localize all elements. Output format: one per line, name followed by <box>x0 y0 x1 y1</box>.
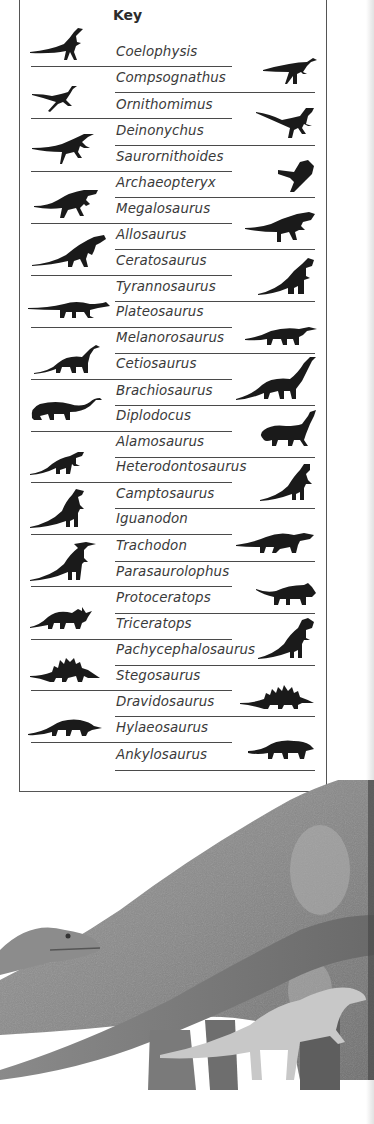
key-title: Key <box>113 7 142 23</box>
alamosaurus-silhouette-icon <box>258 410 316 450</box>
divider-line <box>31 171 232 172</box>
divider-line <box>115 613 315 614</box>
key-entry-coelophysis: Coelophysis <box>116 44 197 59</box>
divider-line <box>115 457 315 458</box>
stegosaurus-silhouette-icon <box>30 656 100 684</box>
divider-line <box>31 66 232 67</box>
divider-line <box>115 508 315 509</box>
divider-line <box>115 353 315 354</box>
coelophysis-silhouette-icon <box>30 26 96 62</box>
key-entry-parasaurolophus: Parasaurolophus <box>116 564 229 579</box>
key-entry-stegosaurus: Stegosaurus <box>116 668 200 683</box>
key-entry-compsognathus: Compsognathus <box>116 70 226 85</box>
megalosaurus-silhouette-icon <box>34 188 100 220</box>
divider-line <box>115 665 315 666</box>
key-entry-dravidosaurus: Dravidosaurus <box>116 694 214 709</box>
divider-line <box>31 327 232 328</box>
ornithomimus-silhouette-icon <box>32 84 80 114</box>
heterodontosaurus-silhouette-icon <box>30 448 86 476</box>
divider-line <box>115 770 315 771</box>
key-entry-heterodontosaurus: Heterodontosaurus <box>116 459 246 474</box>
key-entry-ornithomimus: Ornithomimus <box>116 97 213 112</box>
divider-line <box>31 431 232 432</box>
key-entry-ceratosaurus: Ceratosaurus <box>116 253 207 268</box>
key-entry-iguanodon: Iguanodon <box>116 511 188 526</box>
deinonychus-silhouette-icon <box>32 132 98 166</box>
dravidosaurus-silhouette-icon <box>240 683 314 711</box>
divider-line <box>31 379 232 380</box>
compsognathus-silhouette-icon <box>263 58 317 86</box>
trachodon-silhouette-icon <box>236 531 316 555</box>
key-entry-melanorosaurus: Melanorosaurus <box>116 330 224 345</box>
key-entry-camptosaurus: Camptosaurus <box>116 486 214 501</box>
tyrannosaurus-silhouette-icon <box>258 256 316 296</box>
key-entry-protoceratops: Protoceratops <box>116 590 211 605</box>
saurornithoides-silhouette-icon <box>256 106 316 140</box>
divider-line <box>31 742 232 743</box>
key-entry-tyrannosaurus: Tyrannosaurus <box>116 279 216 294</box>
divider-line <box>115 92 315 93</box>
divider-line <box>31 639 232 640</box>
pachycephalosaurus-silhouette-icon <box>258 616 314 660</box>
key-entry-brachiosaurus: Brachiosaurus <box>116 383 213 398</box>
divider-line <box>31 118 232 119</box>
triceratops-silhouette-icon <box>30 607 92 633</box>
hylaeosaurus-silhouette-icon <box>28 716 102 738</box>
protoceratops-silhouette-icon <box>256 583 316 607</box>
key-entry-triceratops: Triceratops <box>116 616 192 631</box>
cetiosaurus-silhouette-icon <box>34 345 100 375</box>
divider-line <box>115 301 315 302</box>
key-entry-saurornithoides: Saurornithoides <box>116 149 223 164</box>
divider-line <box>115 405 315 406</box>
divider-line <box>115 249 315 250</box>
divider-line <box>31 690 232 691</box>
divider-line <box>31 586 232 587</box>
key-entry-deinonychus: Deinonychus <box>116 123 204 138</box>
key-entry-archaeopteryx: Archaeopteryx <box>116 175 216 190</box>
divider-line <box>31 534 232 535</box>
camptosaurus-silhouette-icon <box>30 487 88 529</box>
divider-line <box>115 145 315 146</box>
brachiosaurus-silhouette-icon <box>236 355 316 401</box>
divider-line <box>115 197 315 198</box>
divider-line <box>31 482 232 483</box>
sauropod-illustration <box>0 780 374 1124</box>
key-entry-plateosaurus: Plateosaurus <box>116 304 204 319</box>
divider-line <box>115 561 315 562</box>
key-entry-ankylosaurus: Ankylosaurus <box>116 747 207 762</box>
archaeopteryx-silhouette-icon <box>278 160 316 194</box>
melanorosaurus-silhouette-icon <box>245 325 317 347</box>
ankylosaurus-silhouette-icon <box>248 739 314 761</box>
divider-line <box>31 223 232 224</box>
key-entry-trachodon: Trachodon <box>116 538 187 553</box>
key-entry-megalosaurus: Megalosaurus <box>116 201 210 216</box>
key-entry-alamosaurus: Alamosaurus <box>116 434 204 449</box>
allosaurus-right-silhouette-icon <box>245 210 317 244</box>
key-entry-diplodocus: Diplodocus <box>116 408 191 423</box>
camptosaurus-right-silhouette-icon <box>260 462 316 502</box>
key-entry-cetiosaurus: Cetiosaurus <box>116 356 197 371</box>
plateosaurus-silhouette-icon <box>28 300 110 320</box>
allosaurus-silhouette-icon <box>32 233 108 269</box>
divider-line <box>115 716 315 717</box>
key-entry-hylaeosaurus: Hylaeosaurus <box>116 720 208 735</box>
key-entry-allosaurus: Allosaurus <box>116 227 186 242</box>
key-entry-pachycephalosaurus: Pachycephalosaurus <box>116 642 255 657</box>
divider-line <box>31 275 232 276</box>
parasaurolophus-silhouette-icon <box>30 540 96 582</box>
diplodocus-silhouette-icon <box>30 396 102 422</box>
